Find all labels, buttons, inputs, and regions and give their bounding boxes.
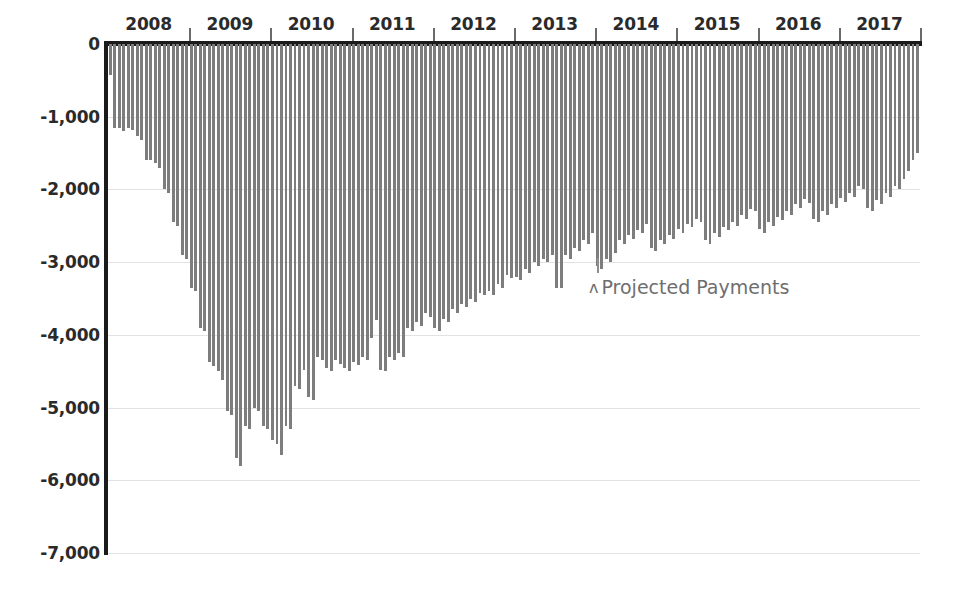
bar — [672, 44, 675, 239]
bar — [533, 44, 536, 262]
bar — [745, 44, 748, 219]
x-axis-labels: 2008200920102011201220132014201520162017 — [0, 0, 963, 44]
bar — [442, 44, 445, 319]
bar — [244, 44, 247, 426]
bar — [596, 44, 599, 266]
x-axis-tick-label: 2014 — [613, 14, 660, 34]
x-axis-tick — [920, 28, 922, 41]
bar — [411, 44, 414, 331]
bar — [158, 44, 161, 168]
y-axis-tick-label: -6,000 — [8, 470, 100, 490]
bar — [456, 44, 459, 313]
bar — [659, 44, 662, 240]
x-axis-tick-label: 2017 — [856, 14, 903, 34]
bar — [271, 44, 274, 440]
bar — [176, 44, 179, 226]
bar — [203, 44, 206, 331]
x-axis-tick — [352, 28, 354, 41]
bar — [632, 44, 635, 239]
bar — [497, 44, 500, 284]
bar — [866, 44, 869, 208]
bar — [460, 44, 463, 304]
bar — [862, 44, 865, 189]
bar — [190, 44, 193, 288]
bar — [415, 44, 418, 322]
bar — [465, 44, 468, 307]
bar — [257, 44, 260, 411]
bar — [564, 44, 567, 255]
bar — [172, 44, 175, 222]
gridline — [108, 553, 920, 554]
bar — [194, 44, 197, 291]
bar — [857, 44, 860, 186]
bar — [587, 44, 590, 244]
bar — [772, 44, 775, 226]
bar — [916, 44, 919, 153]
bar — [808, 44, 811, 203]
bar — [718, 44, 721, 237]
bar — [898, 44, 901, 189]
bar — [839, 44, 842, 198]
y-axis-tick-label: -2,000 — [8, 179, 100, 199]
bar — [307, 44, 310, 397]
bar — [515, 44, 518, 277]
y-axis-tick-label: 0 — [8, 34, 100, 54]
bar — [546, 44, 549, 262]
bar — [424, 44, 427, 313]
bar — [844, 44, 847, 202]
bar — [519, 44, 522, 280]
bar — [835, 44, 838, 208]
bar — [131, 44, 134, 130]
bar — [316, 44, 319, 357]
bar — [140, 44, 143, 140]
bar — [799, 44, 802, 208]
bar — [713, 44, 716, 233]
bar — [285, 44, 288, 426]
bar — [569, 44, 572, 259]
bar — [280, 44, 283, 455]
bar — [524, 44, 527, 269]
bar — [573, 44, 576, 248]
bar — [794, 44, 797, 204]
bar — [361, 44, 364, 357]
bar — [388, 44, 391, 357]
bar — [208, 44, 211, 362]
y-axis-tick-label: -3,000 — [8, 252, 100, 272]
bar — [429, 44, 432, 317]
bar — [248, 44, 251, 429]
bar — [330, 44, 333, 371]
bar — [875, 44, 878, 200]
bar — [469, 44, 472, 299]
bar — [803, 44, 806, 199]
bar — [510, 44, 513, 278]
y-axis-tick-label: -7,000 — [8, 543, 100, 563]
bar — [479, 44, 482, 293]
bar — [420, 44, 423, 326]
y-axis-tick-label: -5,000 — [8, 398, 100, 418]
bar — [109, 44, 112, 75]
bar — [578, 44, 581, 251]
bar — [785, 44, 788, 211]
bar — [700, 44, 703, 222]
bar — [501, 44, 504, 288]
x-axis-tick — [595, 28, 597, 41]
bar — [776, 44, 779, 217]
bar — [600, 44, 603, 269]
bar — [749, 44, 752, 209]
bar — [357, 44, 360, 365]
bar — [447, 44, 450, 322]
bar — [871, 44, 874, 211]
bar — [235, 44, 238, 458]
bar — [145, 44, 148, 160]
bar — [217, 44, 220, 371]
y-axis-labels: 0-1,000-2,000-3,000-4,000-5,000-6,000-7,… — [0, 0, 100, 591]
bar — [812, 44, 815, 219]
annotation-projected-payments: ʌ Projected Payments — [589, 276, 789, 298]
bar — [555, 44, 558, 288]
bar — [709, 44, 712, 244]
bar — [122, 44, 125, 131]
bar — [370, 44, 373, 338]
bar — [754, 44, 757, 211]
bar — [663, 44, 666, 244]
bar — [591, 44, 594, 233]
